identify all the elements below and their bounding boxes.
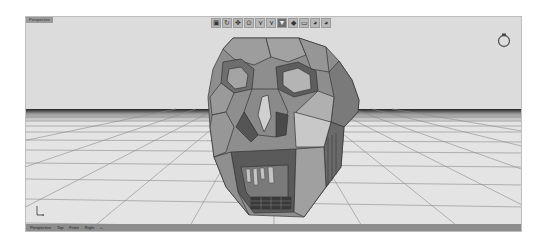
tab-top[interactable]: Top bbox=[57, 224, 63, 231]
scene-3d[interactable] bbox=[26, 17, 522, 232]
shade-mode-icon: ▣ bbox=[213, 19, 220, 27]
tab-perspective[interactable]: Perspective bbox=[30, 224, 51, 231]
render-preview-button[interactable]: ◕ bbox=[310, 18, 320, 28]
select-edge-button[interactable]: ⋎ bbox=[266, 18, 276, 28]
perspective-viewport[interactable]: Perspective ▣ ↻ ✥ ⊙ ⋎ ⋎ ▼ ◆ ▭ ◕ ◕ x Pers… bbox=[25, 16, 522, 232]
orbit-ring-icon bbox=[499, 36, 510, 47]
object-filter-icon: ◆ bbox=[291, 19, 296, 27]
material-button[interactable]: ◕ bbox=[321, 18, 331, 28]
viewport-title[interactable]: Perspective bbox=[26, 17, 53, 23]
axis-x-label: x bbox=[42, 212, 44, 217]
tab-front[interactable]: Front bbox=[69, 224, 78, 231]
select-object-button[interactable]: ◆ bbox=[288, 18, 298, 28]
orbit-handle-icon bbox=[502, 34, 506, 37]
rotate-view-button[interactable]: ↻ bbox=[222, 18, 232, 28]
tab-right[interactable]: Right bbox=[85, 224, 94, 231]
rotate-icon: ↻ bbox=[224, 19, 230, 27]
frame-view-button[interactable]: ▭ bbox=[299, 18, 309, 28]
zoom-icon: ⊙ bbox=[246, 19, 252, 27]
edge-filter-icon: ⋎ bbox=[269, 19, 274, 27]
select-face-button[interactable]: ▼ bbox=[277, 18, 287, 28]
viewport-tabs: Perspective Top Front Right + bbox=[26, 224, 521, 231]
vertex-filter-icon: ⋎ bbox=[258, 19, 263, 27]
pan-icon: ✥ bbox=[235, 19, 241, 27]
viewport-toolbar: ▣ ↻ ✥ ⊙ ⋎ ⋎ ▼ ◆ ▭ ◕ ◕ bbox=[211, 17, 331, 29]
view-rotate-gizmo[interactable] bbox=[497, 32, 511, 48]
select-vertex-button[interactable]: ⋎ bbox=[255, 18, 265, 28]
pan-view-button[interactable]: ✥ bbox=[233, 18, 243, 28]
material-sphere-icon: ◕ bbox=[324, 19, 328, 27]
add-viewport-tab-button[interactable]: + bbox=[100, 224, 102, 231]
shade-mode-button[interactable]: ▣ bbox=[211, 18, 221, 28]
zoom-view-button[interactable]: ⊙ bbox=[244, 18, 254, 28]
render-sphere-icon: ◕ bbox=[313, 19, 317, 27]
face-filter-icon: ▼ bbox=[279, 19, 286, 27]
frame-icon: ▭ bbox=[301, 19, 308, 27]
